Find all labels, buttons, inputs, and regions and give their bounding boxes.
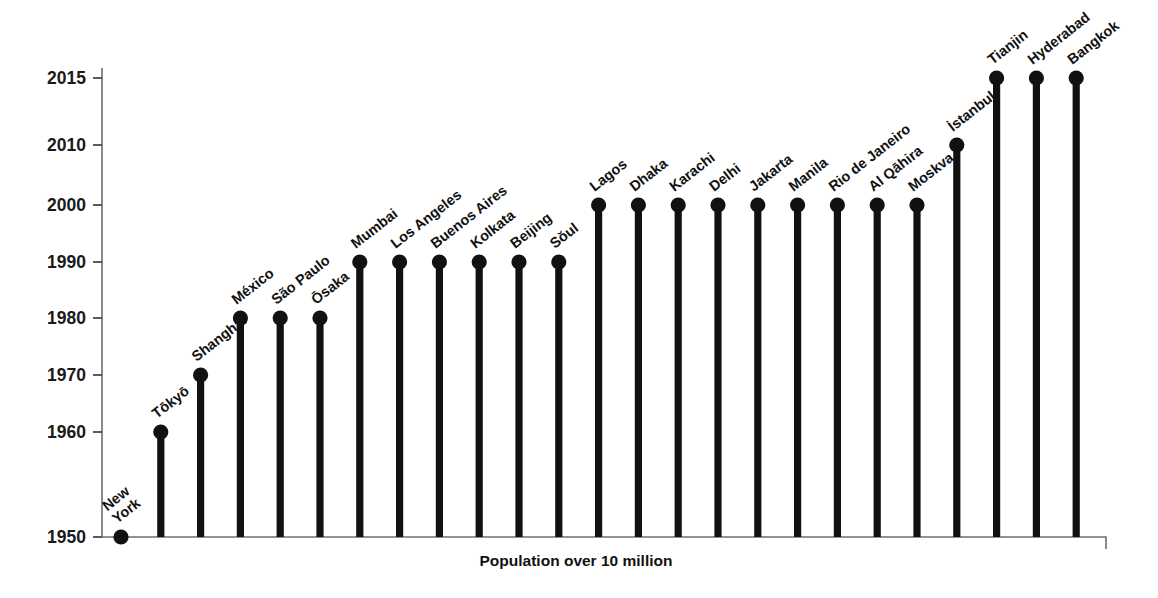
city-data-point — [591, 197, 606, 212]
city-data-point — [671, 197, 686, 212]
city-data-point — [153, 424, 168, 439]
city-label: NewYork — [99, 481, 144, 526]
city-data-point — [511, 254, 526, 269]
y-axis-tick-label: 1980 — [47, 308, 86, 328]
y-axis-tick-label: 1960 — [47, 422, 86, 442]
lollipop-chart: 19501960197019801990200020102015 NewYork… — [0, 0, 1158, 598]
city-data-point — [1029, 70, 1044, 85]
y-axis-tick-label: 1970 — [47, 365, 86, 385]
city-data-point — [949, 137, 964, 152]
city-label: Dhaka — [626, 155, 671, 195]
city-label: México — [228, 265, 276, 308]
city-data-point — [193, 367, 208, 382]
city-label-text: Sŏul — [547, 220, 581, 252]
city-label-text: Tianjin — [985, 26, 1031, 67]
city-label-text: Dhaka — [626, 155, 671, 195]
city-data-point — [830, 197, 845, 212]
stems-group — [113, 70, 1083, 544]
city-data-point — [273, 310, 288, 325]
city-data-point — [750, 197, 765, 212]
city-data-point — [551, 254, 566, 269]
city-label-text: İstanbul — [945, 88, 998, 135]
city-data-point — [113, 529, 128, 544]
city-label-text: Jakarta — [746, 150, 796, 194]
city-data-point — [392, 254, 407, 269]
city-label-text: Lagos — [587, 156, 630, 195]
city-label: Sŏul — [547, 220, 581, 252]
city-label-text: Tōkyō — [149, 383, 192, 422]
city-label: İstanbul — [945, 88, 998, 135]
city-label: Tianjin — [985, 26, 1031, 67]
city-label: Tōkyō — [149, 383, 192, 422]
city-data-point — [432, 254, 447, 269]
city-labels-group: NewYorkTōkyōShanghaiMéxicoSão PauloŌsaka… — [99, 9, 1123, 526]
city-data-point — [352, 254, 367, 269]
city-label-text: México — [228, 265, 276, 308]
city-data-point — [909, 197, 924, 212]
city-label: Jakarta — [746, 150, 796, 194]
y-axis-ticks: 19501960197019801990200020102015 — [47, 68, 102, 547]
y-axis-tick-label: 1950 — [47, 527, 86, 547]
city-label: Lagos — [587, 156, 630, 195]
city-data-point — [790, 197, 805, 212]
city-label-text: NewYork — [99, 481, 144, 526]
x-axis-title: Population over 10 million — [480, 552, 673, 569]
y-axis-tick-label: 2015 — [47, 68, 86, 88]
city-data-point — [1069, 70, 1084, 85]
city-data-point — [472, 254, 487, 269]
city-data-point — [710, 197, 725, 212]
city-data-point — [312, 310, 327, 325]
y-axis-tick-label: 1990 — [47, 252, 86, 272]
city-data-point — [870, 197, 885, 212]
city-data-point — [631, 197, 646, 212]
y-axis-tick-label: 2000 — [47, 195, 86, 215]
chart-canvas: 19501960197019801990200020102015 NewYork… — [0, 0, 1158, 598]
y-axis-tick-label: 2010 — [47, 135, 86, 155]
city-data-point — [989, 70, 1004, 85]
